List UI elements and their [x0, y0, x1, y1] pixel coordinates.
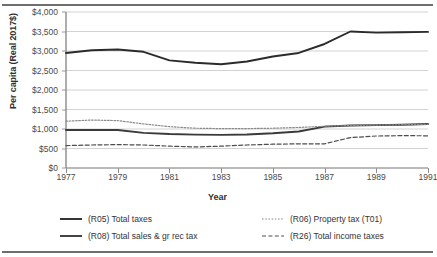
legend-item[interactable]: (R05) Total taxes [60, 210, 197, 227]
series-line-0 [66, 32, 428, 65]
legend-item[interactable]: (R26) Total income taxes [262, 227, 384, 244]
legend-line-icon [60, 214, 82, 224]
legend-column-left: (R05) Total taxes(R08) Total sales & gr … [60, 210, 197, 244]
legend-label: (R06) Property tax (T01) [290, 214, 382, 224]
legend-label: (R26) Total income taxes [290, 231, 384, 241]
legend-label: (R05) Total taxes [88, 214, 152, 224]
legend-item[interactable]: (R06) Property tax (T01) [262, 210, 384, 227]
series-line-3 [66, 136, 428, 147]
legend-line-icon [262, 231, 284, 241]
plot-area: Per capita (Real 2017$) Year $0$500$1,00… [0, 8, 435, 204]
top-divider [2, 4, 433, 6]
legend-column-right: (R06) Property tax (T01)(R26) Total inco… [262, 210, 384, 244]
legend-item[interactable]: (R08) Total sales & gr rec tax [60, 227, 197, 244]
legend-line-icon [262, 214, 284, 224]
bottom-divider [2, 251, 433, 253]
legend-line-icon [60, 231, 82, 241]
chart-plot [0, 8, 435, 204]
legend-label: (R08) Total sales & gr rec tax [88, 231, 197, 241]
chart-legend: (R05) Total taxes(R08) Total sales & gr … [0, 210, 435, 250]
